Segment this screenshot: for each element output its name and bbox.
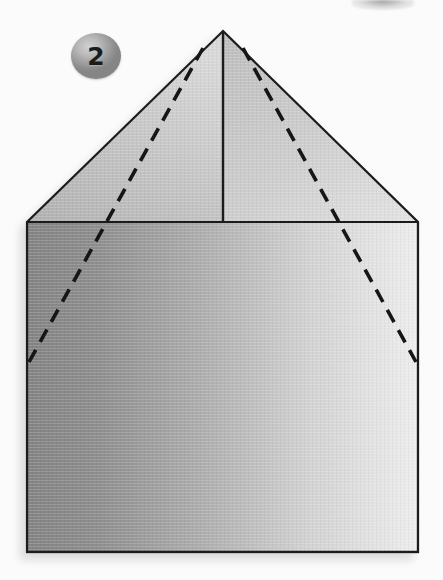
step-number-badge: 2 bbox=[71, 33, 121, 79]
body-face-texture bbox=[27, 222, 418, 552]
scan-smudge-icon bbox=[352, 0, 414, 10]
diagram-canvas: 2 bbox=[0, 0, 443, 580]
step-number-label: 2 bbox=[87, 44, 104, 69]
origami-figure bbox=[0, 0, 443, 580]
figure-body-group bbox=[27, 31, 418, 552]
